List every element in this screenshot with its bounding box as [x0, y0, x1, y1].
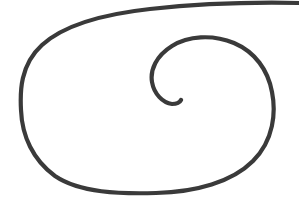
- canvas-background: [0, 0, 299, 212]
- spiral-drawing: [0, 0, 299, 212]
- drawing-canvas: [0, 0, 299, 212]
